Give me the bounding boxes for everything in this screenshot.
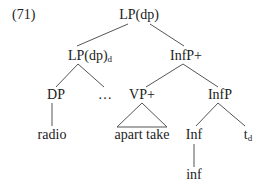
node-subscript: d (108, 54, 113, 64)
node-label: … (98, 87, 112, 102)
node-ellipsis: … (98, 87, 112, 103)
edge-root-to-lp-dp-d (77, 24, 128, 46)
edge-root-to-infp-plus (150, 24, 184, 46)
node-label: apart take (115, 127, 170, 142)
edge-infp-to-inf (196, 103, 218, 126)
node-label: VP+ (129, 87, 155, 102)
node-label: DP (47, 87, 65, 102)
edge-lp-dp-d-to-dp (56, 64, 78, 87)
node-lp-dp-root: LP(dp) (119, 7, 159, 23)
node-trace: td (244, 127, 252, 143)
vp-plus-triangle (117, 103, 167, 127)
node-infp: InfP (208, 87, 232, 103)
example-number: (71) (12, 7, 35, 23)
node-inf-head: Inf (186, 127, 202, 143)
node-label: radio (38, 127, 67, 142)
node-label: InfP+ (170, 48, 202, 63)
node-vp-plus: VP+ (129, 87, 155, 103)
edge-infp-plus-to-infp (183, 64, 218, 87)
node-infp-plus: InfP+ (170, 48, 202, 64)
node-label: LP(dp) (119, 7, 159, 22)
node-subscript: d (248, 133, 253, 143)
edge-infp-to-trace (218, 103, 245, 126)
node-label: LP(dp) (68, 48, 108, 63)
node-dp: DP (47, 87, 65, 103)
node-lp-dp-d: LP(dp)d (68, 48, 112, 64)
node-radio: radio (38, 127, 67, 143)
edge-lp-dp-d-to-ellipsis (78, 64, 104, 87)
node-label: Inf (186, 127, 202, 142)
node-label: InfP (208, 87, 232, 102)
node-label: inf (186, 167, 202, 182)
node-inf-word: inf (186, 167, 202, 183)
edge-infp-plus-to-vp-plus (146, 64, 183, 87)
node-apart-take: apart take (115, 127, 170, 143)
